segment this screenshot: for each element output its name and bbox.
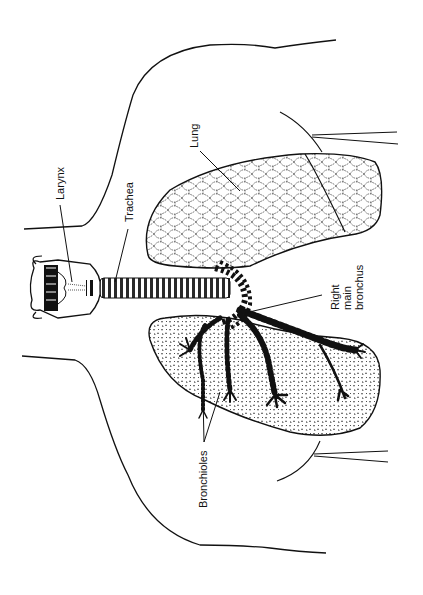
rib-curve-bottom: [277, 441, 320, 481]
leader-trachea: [115, 229, 128, 282]
leader-right-main-bronchus: [245, 295, 322, 313]
label-trachea: Trachea: [124, 182, 135, 222]
respiratory-diagram: Larynx Trachea Lung Right main bronchus …: [0, 0, 423, 595]
lung-upper: [146, 154, 381, 268]
clavicle-line-bottom-2: [314, 456, 388, 462]
label-right-main-bronchus-line3: bronchus: [354, 265, 365, 310]
label-right-main-bronchus-line2: main: [342, 286, 353, 310]
label-lung: Lung: [189, 124, 200, 148]
rib-curve-top: [280, 112, 322, 152]
clavicle-line-top-2: [312, 137, 398, 144]
lung-lower: [149, 315, 380, 435]
clavicle-line-top-1: [312, 132, 397, 135]
larynx: [30, 256, 100, 318]
label-bronchioles: Bronchioles: [198, 451, 209, 508]
label-right-main-bronchus-line1: Right: [330, 284, 341, 310]
clavicle-line-bottom-1: [314, 451, 388, 454]
label-larynx: Larynx: [55, 167, 66, 200]
